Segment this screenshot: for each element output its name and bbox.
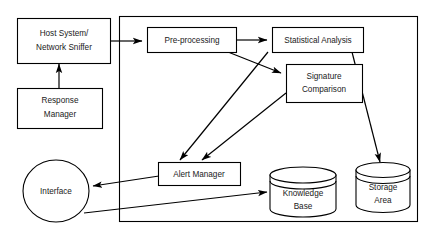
node-pre-processing[interactable]: Pre-processing [148,28,237,53]
node-host-system-line-2: Network Sniffer [36,43,92,52]
node-knowledge-base-line-1: Knowledge [283,189,324,198]
node-storage-area-line-2: Area [374,196,392,205]
edge-statistical-to-alert [180,52,268,160]
node-pre-processing-label: Pre-processing [164,36,220,45]
node-knowledge-base-line-2: Base [294,202,313,211]
node-response-manager-line-1: Response [42,96,79,105]
architecture-diagram: Host System/ Network Sniffer Response Ma… [0,0,442,241]
node-host-system[interactable]: Host System/ Network Sniffer [18,19,111,64]
node-signature-comparison-line-1: Signature [306,72,341,81]
node-response-manager-line-2: Manager [44,110,77,119]
node-alert-manager-label: Alert Manager [173,170,225,179]
edge-signature-to-alert [202,93,286,160]
node-signature-comparison[interactable]: Signature Comparison [287,65,363,103]
node-interface[interactable]: Interface [23,160,89,222]
edge-alert-to-interface [93,176,159,186]
node-response-manager[interactable]: Response Manager [18,89,103,129]
node-statistical-analysis[interactable]: Statistical Analysis [273,28,364,53]
node-statistical-analysis-label: Statistical Analysis [284,36,351,45]
node-signature-comparison-line-2: Comparison [302,85,347,94]
diagram-canvas: Host System/ Network Sniffer Response Ma… [0,0,442,241]
node-knowledge-base[interactable]: Knowledge Base [270,167,336,217]
node-storage-area-line-1: Storage [369,183,398,192]
node-host-system-line-1: Host System/ [40,29,89,38]
node-alert-manager[interactable]: Alert Manager [159,163,241,186]
edge-interface-to-knowledge [84,192,267,213]
node-interface-label: Interface [40,187,72,196]
node-storage-area[interactable]: Storage Area [356,163,410,213]
edge-preprocessing-to-signature [228,52,281,73]
